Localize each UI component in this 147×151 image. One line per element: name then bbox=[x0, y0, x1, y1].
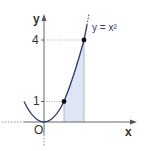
tick-label-1: 1 bbox=[33, 95, 40, 107]
function-label: y = x² bbox=[92, 23, 117, 33]
point-2-4 bbox=[82, 38, 87, 43]
origin-label: O bbox=[34, 124, 43, 136]
parabola-continuation bbox=[87, 14, 89, 25]
y-axis-arrow-icon bbox=[42, 14, 47, 21]
y-axis-label: y bbox=[33, 13, 40, 25]
tick-label-4: 4 bbox=[32, 34, 39, 46]
x-axis-arrow-icon bbox=[130, 120, 137, 125]
x-axis-label: x bbox=[125, 126, 132, 138]
parabola-diagram: y 4 1 O x y = x² bbox=[0, 0, 147, 151]
point-1-1 bbox=[62, 99, 67, 104]
